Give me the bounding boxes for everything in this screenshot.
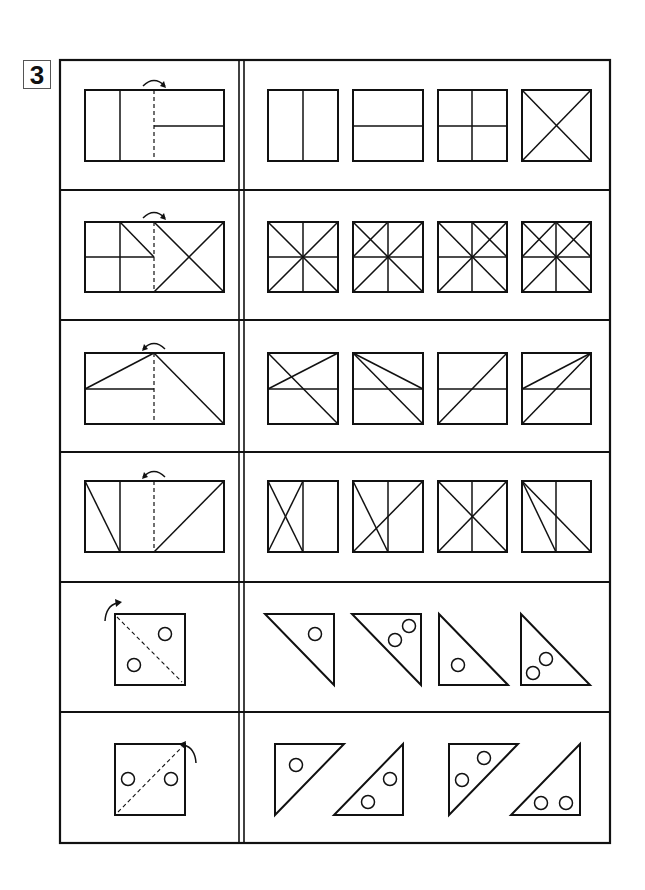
answer-option-4[interactable] — [521, 614, 590, 685]
answer-options — [268, 481, 591, 552]
puzzle-row-5 — [105, 599, 590, 685]
answer-option-4[interactable] — [522, 222, 591, 292]
fold-direction-arrow-icon — [142, 472, 165, 480]
answer-option-2[interactable] — [353, 222, 423, 292]
puzzle-table-grid — [60, 60, 610, 843]
answer-option-2[interactable] — [353, 353, 423, 424]
answer-option-3[interactable] — [438, 353, 507, 424]
answer-option-2[interactable] — [353, 481, 423, 552]
fold-direction-arrow-icon — [143, 213, 166, 221]
puzzle-row-1 — [85, 81, 591, 162]
square-paper-outline — [115, 614, 185, 685]
answer-option-1[interactable] — [275, 744, 344, 815]
answer-option-3[interactable] — [438, 90, 507, 161]
triangle-outline — [265, 614, 334, 685]
answer-option-1[interactable] — [268, 353, 338, 424]
puzzle-row-2 — [85, 213, 591, 293]
puzzle-row-4 — [85, 472, 591, 553]
answer-option-2[interactable] — [334, 744, 403, 815]
question-figure — [85, 81, 224, 162]
answer-option-1[interactable] — [265, 614, 334, 685]
answer-options — [275, 744, 580, 815]
puzzle-row-3 — [85, 344, 591, 425]
answer-option-3[interactable] — [439, 614, 508, 685]
triangle-outline — [439, 614, 508, 685]
answer-options — [268, 90, 591, 161]
answer-options — [265, 614, 590, 685]
question-figure — [85, 213, 224, 293]
puzzle-row-6 — [115, 741, 580, 815]
question-figure — [105, 599, 185, 685]
triangle-outline — [334, 744, 403, 815]
triangle-outline — [521, 614, 590, 685]
question-figure — [115, 741, 196, 815]
triangle-outline — [352, 614, 421, 685]
answer-option-3[interactable] — [449, 744, 518, 815]
triangle-outline — [511, 744, 580, 815]
answer-option-1[interactable] — [268, 90, 338, 161]
answer-option-4[interactable] — [522, 481, 591, 552]
question-figure — [85, 344, 224, 425]
answer-option-4[interactable] — [522, 90, 591, 161]
triangle-outline — [449, 744, 518, 815]
triangle-outline — [275, 744, 344, 815]
answer-option-4[interactable] — [511, 744, 580, 815]
paper-folding-puzzle-sheet — [0, 0, 645, 890]
fold-direction-arrow-icon — [143, 81, 166, 89]
answer-options — [268, 353, 591, 424]
answer-options — [268, 222, 591, 292]
answer-option-3[interactable] — [438, 222, 507, 292]
fold-direction-arrow-icon — [142, 344, 165, 352]
answer-option-1[interactable] — [268, 222, 338, 292]
arrow-head — [115, 599, 122, 607]
answer-option-4[interactable] — [522, 353, 591, 424]
question-figure — [85, 472, 224, 553]
answer-option-2[interactable] — [353, 90, 423, 161]
answer-option-2[interactable] — [352, 614, 421, 685]
answer-option-1[interactable] — [268, 481, 338, 552]
answer-option-3[interactable] — [438, 481, 507, 552]
